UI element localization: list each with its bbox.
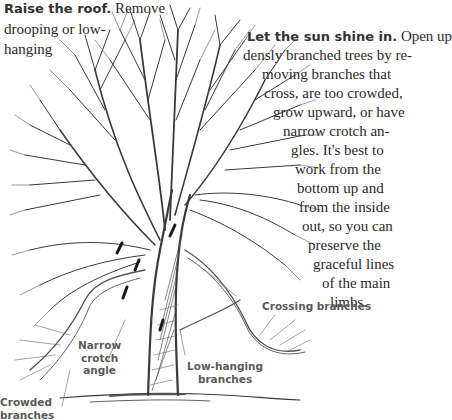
label-crossing-branches: Crossing branches	[262, 300, 371, 313]
caption-sun-shine: Let the sun shine in. Open up densly bra…	[0, 0, 405, 320]
leader-low-hanging	[180, 330, 185, 355]
leader-crowded	[62, 370, 70, 406]
label-narrow-crotch-angle: Narrow crotch angle	[78, 339, 121, 377]
label-crowded-branches: Crowded branches	[0, 396, 54, 420]
label-low-hanging-branches: Low-hanging branches	[187, 360, 263, 385]
cut-mark	[160, 320, 163, 330]
caption-sun-shine-lead: Let the sun shine in.	[247, 29, 397, 44]
